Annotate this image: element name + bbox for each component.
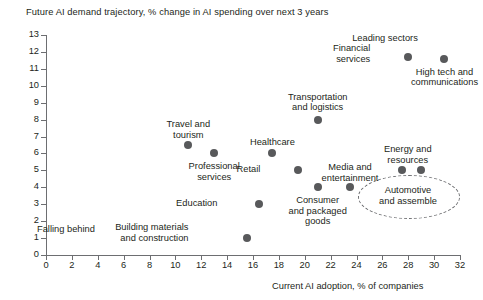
- y-tick-label: 9: [17, 98, 39, 107]
- y-tick-label: 1: [17, 233, 39, 242]
- point-label-automotive: Automotive and assemble: [358, 185, 458, 206]
- data-point[interactable]: [404, 53, 412, 61]
- point-label: Transportation and logistics: [272, 92, 364, 113]
- x-axis-title: Current AI adoption, % of companies: [272, 281, 423, 291]
- chart-title: Future AI demand trajectory, % change in…: [26, 7, 328, 17]
- x-tick-label: 30: [422, 261, 446, 270]
- y-tick-label: 10: [17, 81, 39, 90]
- x-tick-label: 24: [345, 261, 369, 270]
- y-tick-mark: [41, 238, 46, 239]
- y-tick-label: 0: [17, 250, 39, 259]
- y-tick-mark: [41, 35, 46, 36]
- y-tick-mark: [41, 120, 46, 121]
- data-point[interactable]: [294, 166, 302, 174]
- x-tick-label: 10: [163, 261, 187, 270]
- y-tick-mark: [41, 153, 46, 154]
- x-tick-label: 32: [448, 261, 472, 270]
- data-point[interactable]: [255, 200, 263, 208]
- point-label: Financial services: [310, 43, 370, 64]
- x-tick-label: 16: [241, 261, 265, 270]
- y-tick-mark: [41, 86, 46, 87]
- y-tick-label: 6: [17, 148, 39, 157]
- point-label: Education: [157, 198, 217, 209]
- data-point[interactable]: [314, 183, 322, 191]
- data-point[interactable]: [417, 166, 425, 174]
- data-point[interactable]: [184, 141, 192, 149]
- x-tick-label: 18: [267, 261, 291, 270]
- y-tick-mark: [41, 221, 46, 222]
- point-label: Healthcare: [237, 137, 307, 148]
- data-point[interactable]: [314, 116, 322, 124]
- annotation-falling-behind: Falling behind: [37, 224, 147, 235]
- y-tick-label: 4: [17, 182, 39, 191]
- data-point[interactable]: [243, 234, 251, 242]
- y-tick-mark: [41, 187, 46, 188]
- y-tick-label: 2: [17, 216, 39, 225]
- point-label: Energy and resources: [371, 144, 445, 165]
- y-tick-mark: [41, 69, 46, 70]
- x-tick-label: 6: [112, 261, 136, 270]
- x-tick-label: 12: [189, 261, 213, 270]
- y-tick-label: 11: [17, 64, 39, 73]
- y-tick-mark: [41, 52, 46, 53]
- point-label: High tech and communications: [395, 67, 483, 88]
- y-axis-line: [46, 35, 47, 256]
- x-tick-label: 20: [293, 261, 317, 270]
- y-tick-mark: [41, 204, 46, 205]
- x-tick-label: 22: [319, 261, 343, 270]
- x-tick-label: 14: [215, 261, 239, 270]
- data-point[interactable]: [346, 183, 354, 191]
- x-tick-label: 28: [396, 261, 420, 270]
- data-point[interactable]: [268, 149, 276, 157]
- x-tick-label: 4: [86, 261, 110, 270]
- x-tick-label: 26: [370, 261, 394, 270]
- x-tick-label: 8: [138, 261, 162, 270]
- y-tick-label: 7: [17, 132, 39, 141]
- data-point[interactable]: [440, 55, 448, 63]
- y-tick-label: 8: [17, 115, 39, 124]
- y-tick-label: 13: [17, 30, 39, 39]
- point-label: Travel and tourism: [148, 119, 228, 140]
- y-tick-mark: [41, 137, 46, 138]
- y-tick-mark: [41, 170, 46, 171]
- y-tick-label: 3: [17, 199, 39, 208]
- point-label: Consumer and packaged goods: [277, 195, 359, 227]
- x-tick-label: 2: [60, 261, 84, 270]
- data-point[interactable]: [398, 166, 406, 174]
- y-tick-label: 12: [17, 47, 39, 56]
- y-tick-mark: [41, 103, 46, 104]
- data-point[interactable]: [210, 149, 218, 157]
- point-label: Retail: [212, 164, 260, 175]
- annotation-leading-sectors: Leading sectors: [330, 33, 440, 44]
- x-tick-label: 0: [34, 261, 58, 270]
- y-tick-label: 5: [17, 165, 39, 174]
